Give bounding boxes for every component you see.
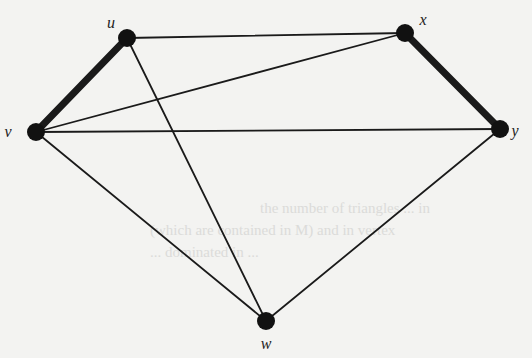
edge-u-w (127, 38, 266, 321)
node-y (491, 120, 509, 138)
node-x (396, 24, 414, 42)
node-label-y: y (509, 122, 519, 140)
node-v (27, 123, 45, 141)
edge-v-y (36, 129, 500, 132)
node-label-u: u (107, 14, 115, 31)
node-label-w: w (261, 335, 272, 352)
graph-diagram: uxvyw (0, 0, 532, 358)
edge-x-v (36, 33, 405, 132)
edge-y-w (266, 129, 500, 321)
node-label-x: x (418, 11, 426, 28)
node-label-v: v (4, 123, 12, 140)
edge-v-w (36, 132, 266, 321)
node-w (257, 312, 275, 330)
edge-x-y (405, 33, 500, 129)
node-u (118, 29, 136, 47)
edge-u-v (36, 38, 127, 132)
edge-u-x (127, 33, 405, 38)
